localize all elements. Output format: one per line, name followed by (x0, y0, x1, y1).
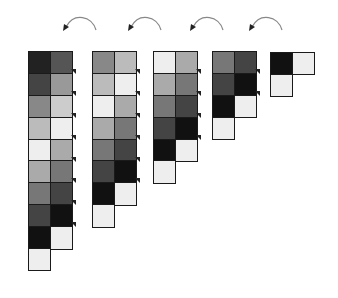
grid-cell (212, 95, 235, 118)
grid-cell (28, 73, 51, 96)
grid-cell (28, 248, 51, 271)
grid-cell (50, 160, 73, 183)
grid-cell (114, 73, 137, 96)
grid-cell (50, 182, 73, 205)
pointer-marker-icon (135, 157, 140, 162)
curved-arrow-icon (60, 14, 100, 34)
right-column (114, 51, 137, 206)
grid-cell (28, 226, 51, 249)
grid-cell (153, 117, 176, 140)
grid-cell (212, 117, 235, 140)
grid-cell (28, 117, 51, 140)
grid-cell (292, 52, 315, 75)
pointer-marker-icon (255, 91, 260, 96)
pointer-marker-icon (135, 135, 140, 140)
diagram-canvas (0, 0, 338, 298)
pointer-marker-icon (71, 222, 76, 227)
grid-cell (92, 204, 115, 227)
grid-cell (153, 160, 176, 183)
grid-cell (153, 51, 176, 74)
grid-cell (50, 117, 73, 140)
grid-cell (153, 139, 176, 162)
grid-cell (175, 117, 198, 140)
pointer-marker-icon (135, 69, 140, 74)
pointer-marker-icon (135, 113, 140, 118)
grid-cell (92, 182, 115, 205)
grid-cell (92, 73, 115, 96)
grid-cell (50, 204, 73, 227)
pointer-marker-icon (71, 91, 76, 96)
grid-cell (50, 226, 73, 249)
grid-cell (92, 160, 115, 183)
pointer-marker-icon (135, 178, 140, 183)
right-column (50, 51, 73, 250)
grid-cell (28, 182, 51, 205)
curved-arrow-icon (125, 14, 165, 34)
grid-cell (114, 117, 137, 140)
pointer-marker-icon (196, 113, 201, 118)
right-column (234, 51, 257, 118)
pointer-marker-icon (196, 91, 201, 96)
left-column (212, 51, 235, 140)
grid-cell (175, 51, 198, 74)
curved-arrow-icon (246, 14, 286, 34)
pointer-marker-icon (255, 69, 260, 74)
grid-cell (50, 95, 73, 118)
grid-cell (50, 139, 73, 162)
pointer-marker-icon (135, 91, 140, 96)
pointer-marker-icon (71, 157, 76, 162)
pointer-marker-icon (71, 200, 76, 205)
grid-cell (270, 74, 293, 97)
grid-cell (212, 51, 235, 74)
left-column (28, 51, 51, 271)
pointer-marker-icon (71, 135, 76, 140)
right-column (292, 52, 315, 75)
grid-cell (92, 139, 115, 162)
grid-cell (28, 204, 51, 227)
grid-cell (114, 160, 137, 183)
pointer-marker-icon (71, 113, 76, 118)
grid-cell (50, 51, 73, 74)
right-column (175, 51, 198, 162)
grid-cell (114, 139, 137, 162)
grid-cell (114, 182, 137, 205)
grid-cell (175, 73, 198, 96)
grid-cell (50, 73, 73, 96)
left-column (270, 52, 293, 97)
grid-cell (28, 51, 51, 74)
grid-cell (153, 95, 176, 118)
grid-cell (28, 160, 51, 183)
grid-cell (234, 73, 257, 96)
pointer-marker-icon (196, 69, 201, 74)
grid-cell (114, 51, 137, 74)
pointer-marker-icon (71, 178, 76, 183)
grid-cell (175, 139, 198, 162)
pointer-marker-icon (71, 69, 76, 74)
grid-cell (92, 95, 115, 118)
grid-cell (212, 73, 235, 96)
grid-cell (28, 139, 51, 162)
left-column (153, 51, 176, 184)
curved-arrow-icon (187, 14, 227, 34)
grid-cell (92, 51, 115, 74)
pointer-marker-icon (196, 135, 201, 140)
grid-cell (92, 117, 115, 140)
grid-cell (153, 73, 176, 96)
left-column (92, 51, 115, 228)
grid-cell (234, 51, 257, 74)
grid-cell (114, 95, 137, 118)
grid-cell (175, 95, 198, 118)
grid-cell (234, 95, 257, 118)
grid-cell (270, 52, 293, 75)
grid-cell (28, 95, 51, 118)
